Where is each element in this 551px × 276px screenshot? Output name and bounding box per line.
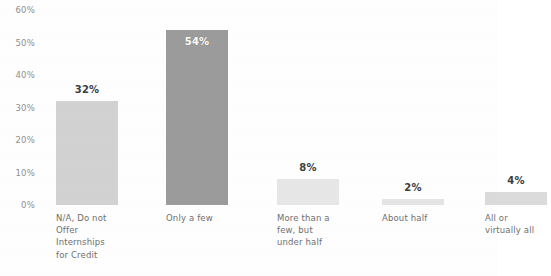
bar — [56, 101, 118, 205]
bar-texture — [277, 179, 339, 205]
x-axis-category-label: About half — [382, 212, 456, 224]
bar-value-label: 2% — [382, 182, 444, 193]
y-axis-tick-label: 30% — [1, 103, 35, 113]
y-axis-tick-label: 50% — [1, 38, 35, 48]
x-axis-category-label: N/A, Do not Offer Internships for Credit — [56, 212, 130, 261]
bar — [166, 30, 228, 206]
y-axis-tick-label: 60% — [1, 5, 35, 15]
bar-texture — [56, 101, 118, 205]
bar-group: 2% — [382, 0, 444, 276]
y-axis-tick-label: 20% — [1, 135, 35, 145]
bar-value-label: 4% — [485, 175, 547, 186]
y-axis-tick-label: 40% — [1, 70, 35, 80]
bar-texture — [166, 30, 228, 206]
y-axis-tick-label: 0% — [1, 200, 35, 210]
y-axis: 60%50%40%30%20%10%0% — [0, 0, 42, 215]
bar — [485, 192, 547, 205]
x-axis-category-label: All or virtually all — [485, 212, 551, 236]
bar-texture — [485, 192, 547, 205]
x-axis-category-label: More than a few, but under half — [277, 212, 351, 249]
x-axis-category-label: Only a few — [166, 212, 240, 224]
bar-group: 54% — [166, 0, 228, 276]
plot-area: 32%N/A, Do not Offer Internships for Cre… — [42, 0, 498, 276]
bar-texture — [382, 199, 444, 206]
bar-value-label: 8% — [277, 162, 339, 173]
bar — [382, 199, 444, 206]
bar — [277, 179, 339, 205]
bar-value-label: 32% — [56, 84, 118, 95]
bar-value-label: 54% — [166, 36, 228, 47]
y-axis-tick-label: 10% — [1, 168, 35, 178]
